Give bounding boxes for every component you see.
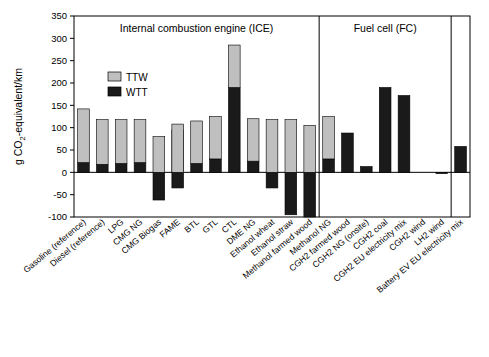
- chart-container: -100-50050100150200250300350g CO2-equiva…: [0, 0, 489, 357]
- bar-group: [191, 121, 203, 172]
- bar-segment-ttw: [266, 120, 278, 173]
- bar-segment-ttw: [153, 137, 165, 173]
- y-axis-tick-label: 350: [51, 10, 67, 21]
- bar-group: [266, 172, 278, 188]
- bar-group: [115, 120, 127, 173]
- bar-segment-wtt: [153, 172, 165, 200]
- bar-segment-wtt: [436, 172, 448, 173]
- bar-segment-wtt: [360, 167, 372, 173]
- bar-group: [304, 172, 316, 217]
- bar-segment-wtt: [455, 146, 467, 172]
- bar-group: [96, 120, 108, 173]
- group-label-fc: Fuel cell (FC): [354, 22, 417, 34]
- y-axis-tick-label: -50: [53, 189, 67, 200]
- y-axis-tick-label: 50: [56, 144, 67, 155]
- bar-segment-ttw: [115, 120, 127, 164]
- bar-segment-wtt: [379, 87, 391, 172]
- bar-segment-wtt: [78, 163, 90, 173]
- bar-segment-wtt: [285, 172, 297, 214]
- bar-segment-wtt: [342, 133, 354, 172]
- y-axis-tick-label: 200: [51, 77, 67, 88]
- bar-group: [210, 117, 222, 173]
- y-axis-tick-label: 250: [51, 55, 67, 66]
- bar-group: [78, 109, 90, 172]
- bar-group: [228, 45, 240, 172]
- bar-segment-wtt: [210, 159, 222, 172]
- bar-segment-ttw: [285, 120, 297, 173]
- bar-segment-ttw: [191, 121, 203, 163]
- bar-group: [247, 119, 259, 173]
- y-axis-tick-label: -100: [48, 211, 67, 222]
- bar-segment-wtt: [398, 96, 410, 173]
- bar-group: [379, 87, 391, 172]
- y-axis-title: g CO2-equivalent/km: [12, 68, 27, 165]
- y-axis-tick-label: 100: [51, 122, 67, 133]
- bar-segment-ttw: [210, 117, 222, 159]
- bar-segment-wtt: [266, 172, 278, 188]
- bar-group: [360, 167, 372, 173]
- bar-group: [398, 96, 410, 173]
- bar-segment-wtt: [115, 163, 127, 172]
- y-axis-title-pre: g CO: [12, 140, 24, 165]
- legend-swatch-wtt: [108, 87, 121, 96]
- bar-segment-ttw: [247, 119, 259, 161]
- x-axis-category-label: BTL: [182, 217, 201, 235]
- group-label-ice: Internal combustion engine (ICE): [120, 22, 274, 34]
- bar-segment-ttw: [172, 124, 184, 172]
- x-axis-category-label: FAME: [158, 217, 183, 240]
- y-axis-tick-label: 300: [51, 33, 67, 44]
- bar-segment-wtt: [304, 172, 316, 217]
- bar-segment-ttw: [323, 117, 335, 159]
- bar-segment-wtt: [96, 164, 108, 172]
- bar-group: [134, 120, 146, 173]
- bar-segment-ttw: [96, 120, 108, 165]
- legend-swatch-ttw: [108, 72, 121, 81]
- bar-segment-ttw: [304, 125, 316, 172]
- y-axis-title-post: -equivalent/km: [12, 68, 24, 137]
- bar-segment-wtt: [228, 87, 240, 172]
- legend-label-wtt: WTT: [126, 87, 148, 98]
- bar-segment-ttw: [228, 45, 240, 87]
- bar-segment-wtt: [191, 163, 203, 172]
- legend-label-ttw: TTW: [126, 72, 148, 83]
- bar-segment-wtt: [247, 161, 259, 172]
- bar-segment-wtt: [134, 163, 146, 173]
- bar-group: [153, 172, 165, 200]
- bar-group: [342, 133, 354, 172]
- bar-segment-ttw: [78, 109, 90, 163]
- x-axis-category-label: GTL: [200, 217, 219, 236]
- bar-segment-wtt: [323, 159, 335, 172]
- bar-group: [436, 172, 448, 173]
- bar-group: [285, 172, 297, 214]
- bar-group: [323, 117, 335, 173]
- bar-segment-wtt: [172, 172, 184, 188]
- bar-segment-ttw: [134, 120, 146, 163]
- co2-emissions-stacked-bar-chart: -100-50050100150200250300350g CO2-equiva…: [0, 0, 489, 357]
- y-axis-tick-label: 150: [51, 100, 67, 111]
- y-axis-tick-label: 0: [62, 167, 67, 178]
- bar-group: [455, 146, 467, 172]
